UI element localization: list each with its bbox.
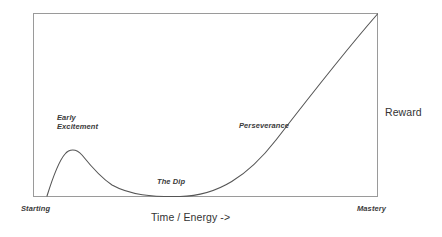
x-axis-start-label: Starting	[21, 204, 50, 213]
y-axis-title: Reward	[385, 106, 422, 119]
annotation-early-excitement-line2: Excitement	[57, 122, 98, 131]
annotation-the-dip: The Dip	[157, 177, 185, 186]
annotation-early-excitement: EarlyExcitement	[57, 113, 98, 132]
plot-frame	[34, 14, 378, 197]
dip-curve-figure: EarlyExcitement The Dip Perseverance Sta…	[0, 0, 442, 237]
annotation-early-excitement-line1: Early	[57, 113, 76, 122]
x-axis-end-label: Mastery	[357, 204, 386, 213]
annotation-perseverance: Perseverance	[239, 121, 289, 130]
x-axis-title: Time / Energy ->	[151, 211, 230, 224]
